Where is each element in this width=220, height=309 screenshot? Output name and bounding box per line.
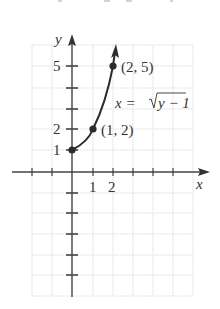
point-label-1-2: (1, 2) [101, 122, 134, 139]
cropped-header-text [58, 0, 173, 2]
point-label-2-5: (2, 5) [121, 59, 154, 76]
equation-radicand: y − 1 [156, 95, 190, 111]
y-axis-label: y [53, 31, 62, 47]
x-tick-label-1: 1 [89, 179, 97, 195]
x-axis [12, 168, 210, 176]
equation-label: x = y − 1 [114, 93, 190, 111]
graph: y x 5 2 1 1 2 (2, 5) (1, 2) x = y − 1 [0, 0, 220, 309]
y-tick-label-1: 1 [53, 142, 61, 158]
x-axis-label: x [195, 176, 203, 192]
point-2-5 [109, 62, 116, 69]
y-tick-label-2: 2 [53, 121, 61, 137]
point-1-2 [89, 125, 96, 132]
y-axis [66, 34, 78, 297]
y-tick-label-5: 5 [53, 58, 61, 74]
point-0-1 [68, 146, 75, 153]
x-tick-label-2: 2 [108, 179, 116, 195]
equation-lhs: x = [114, 95, 136, 111]
